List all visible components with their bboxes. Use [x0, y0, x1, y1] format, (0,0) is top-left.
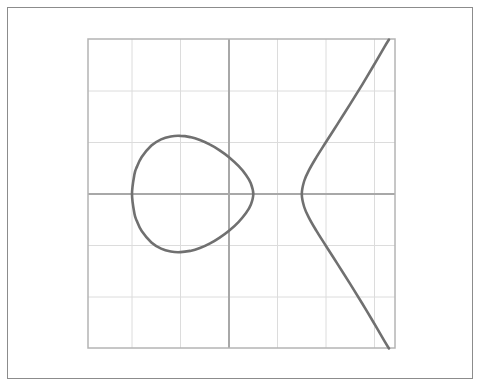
elliptic-curve-plot — [0, 0, 481, 388]
coordinate-axes — [88, 39, 395, 348]
